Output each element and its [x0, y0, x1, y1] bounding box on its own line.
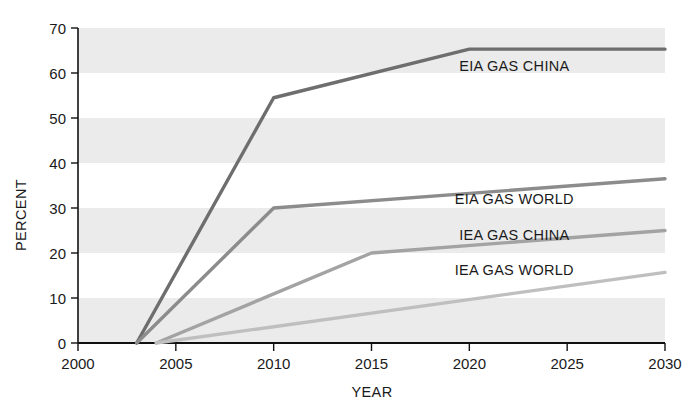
series-label: IEA GAS WORLD	[455, 262, 574, 278]
y-tick-label: 0	[58, 335, 66, 352]
x-axis-title: YEAR	[351, 384, 392, 400]
background-band	[78, 298, 665, 343]
x-tick-label: 2005	[159, 355, 192, 372]
y-tick-label: 10	[49, 290, 66, 307]
y-axis-ticks: 010203040506070	[49, 20, 78, 352]
x-tick-label: 2010	[257, 355, 290, 372]
y-tick-label: 60	[49, 65, 66, 82]
y-tick-label: 30	[49, 200, 66, 217]
y-tick-label: 40	[49, 155, 66, 172]
background-band	[78, 208, 665, 253]
x-tick-label: 2020	[453, 355, 486, 372]
x-axis-ticks: 2000200520102015202020252030	[61, 343, 681, 372]
series-label: EIA GAS WORLD	[455, 191, 574, 207]
chart-canvas: 010203040506070 200020052010201520202025…	[0, 0, 700, 411]
background-band	[78, 118, 665, 163]
x-tick-label: 2025	[550, 355, 583, 372]
gas-share-projection-chart: 010203040506070 200020052010201520202025…	[0, 0, 700, 411]
y-axis-title: PERCENT	[13, 179, 29, 251]
x-tick-label: 2000	[61, 355, 94, 372]
y-tick-label: 50	[49, 110, 66, 127]
y-tick-label: 20	[49, 245, 66, 262]
x-tick-label: 2030	[648, 355, 681, 372]
x-tick-label: 2015	[355, 355, 388, 372]
y-tick-label: 70	[49, 20, 66, 37]
series-label: EIA GAS CHINA	[459, 58, 569, 74]
series-label: IEA GAS CHINA	[459, 227, 569, 243]
